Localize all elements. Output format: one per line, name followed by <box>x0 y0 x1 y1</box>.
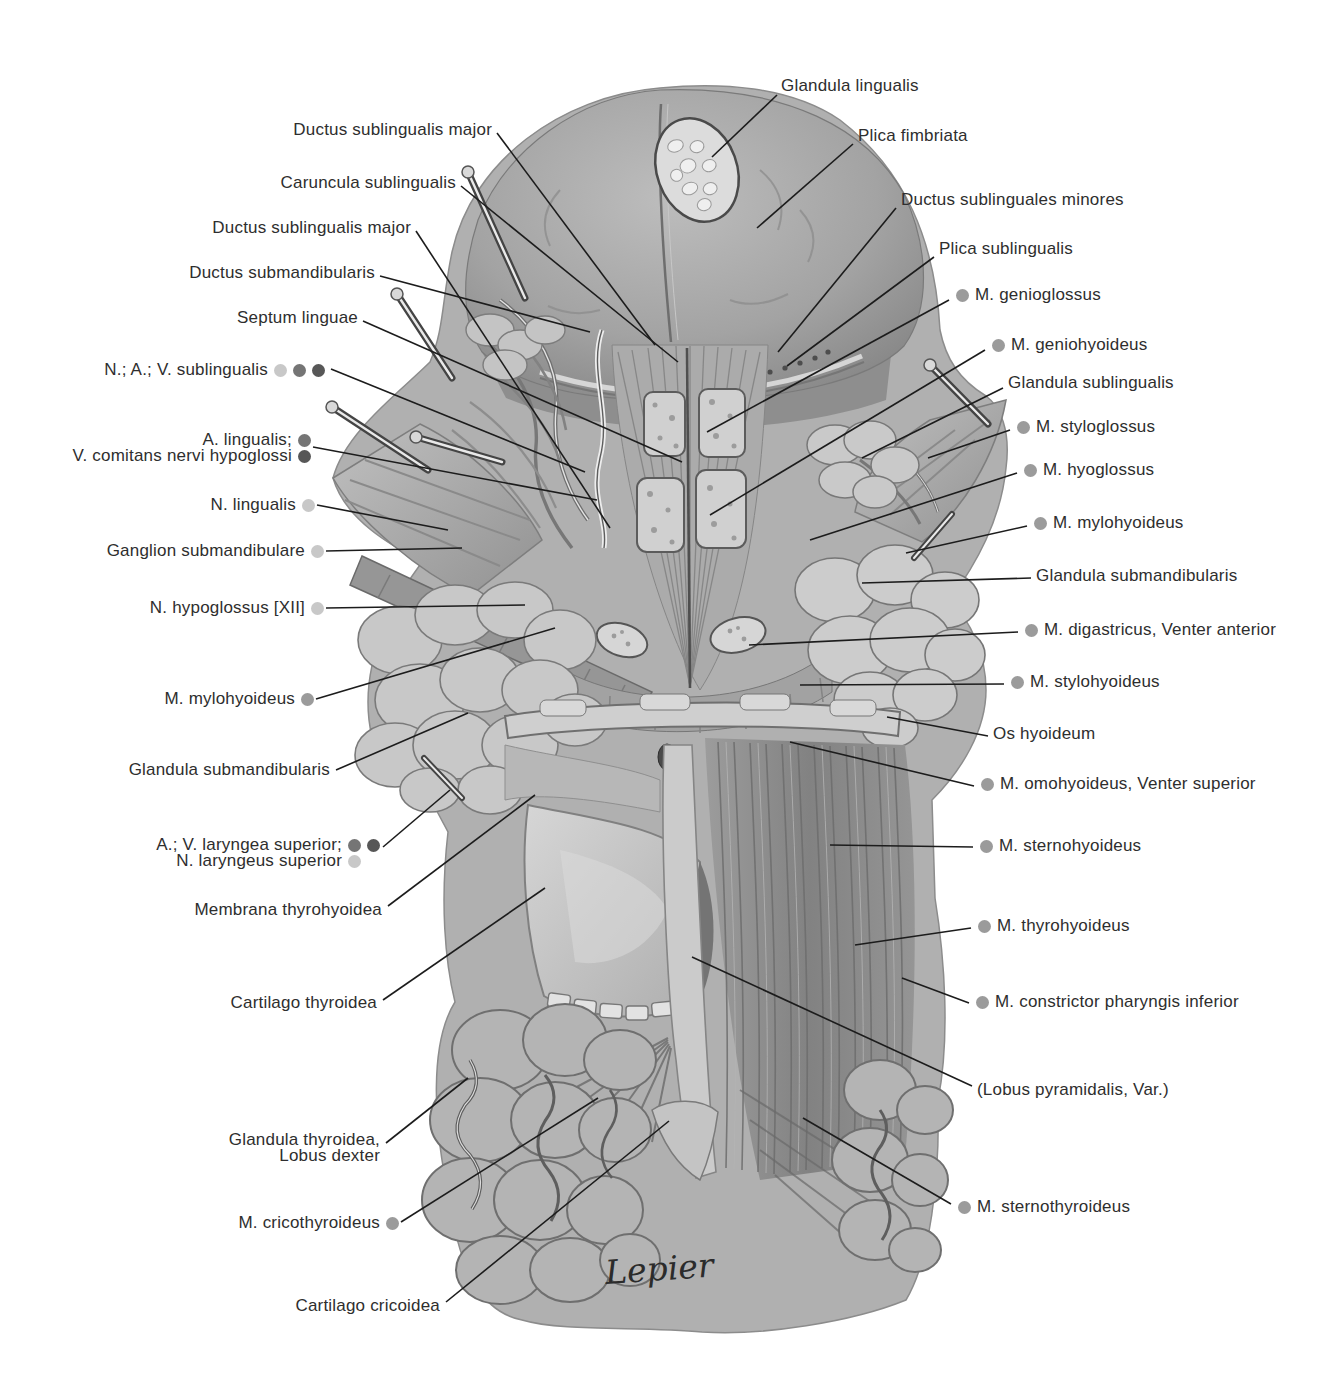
muscle-dot-icon <box>301 693 314 706</box>
label-m-styloglossus: M. styloglossus <box>1017 417 1155 437</box>
label-m-omohyoideus-venter-superior: M. omohyoideus, Venter superior <box>981 774 1256 794</box>
label-m-constrictor-pharyngis-inferior: M. constrictor pharyngis inferior <box>976 992 1239 1012</box>
label-lobus-dexter: Lobus dexter <box>279 1146 380 1166</box>
anatomical-plate: Lepier <box>0 0 1336 1380</box>
label-membrana-thyrohyoidea: Membrana thyrohyoidea <box>194 900 382 920</box>
muscle-dot-icon <box>980 840 993 853</box>
thyroid-gland-right-lobe <box>832 1060 953 1272</box>
label-m-mylohyoideus-left: M. mylohyoideus <box>164 689 314 709</box>
label-plica-sublingualis: Plica sublingualis <box>939 239 1073 259</box>
muscle-dot-icon <box>981 778 994 791</box>
label-nav-sublingualis: N.; A.; V. sublingualis <box>104 360 325 380</box>
artery-dot-icon <box>293 364 306 377</box>
label-plica-fimbriata: Plica fimbriata <box>858 126 968 146</box>
muscle-dot-icon <box>978 920 991 933</box>
muscle-dot-icon <box>1024 464 1037 477</box>
label-septum-linguae: Septum linguae <box>237 308 358 328</box>
label-v-comitans-nervi-hypoglossi: V. comitans nervi hypoglossi <box>73 446 311 466</box>
label-m-mylohyoideus-right: M. mylohyoideus <box>1034 513 1184 533</box>
artery-dot-icon <box>298 434 311 447</box>
label-glandula-submandibularis-right: Glandula submandibularis <box>1036 566 1237 586</box>
muscle-dot-icon <box>976 996 989 1009</box>
label-m-geniohyoideus: M. geniohyoideus <box>992 335 1147 355</box>
label-m-genioglossus: M. genioglossus <box>956 285 1101 305</box>
muscle-dot-icon <box>386 1217 399 1230</box>
label-glandula-sublingualis: Glandula sublingualis <box>1008 373 1174 393</box>
label-caruncula-sublingualis: Caruncula sublingualis <box>281 173 456 193</box>
artery-dot-icon <box>348 839 361 852</box>
muscle-dot-icon <box>992 339 1005 352</box>
nerve-dot-icon <box>302 499 315 512</box>
vein-dot-icon <box>367 839 380 852</box>
label-ganglion-submandibulare: Ganglion submandibulare <box>107 541 324 561</box>
muscle-dot-icon <box>956 289 969 302</box>
muscle-dot-icon <box>1017 421 1030 434</box>
label-m-stylohyoideus: M. stylohyoideus <box>1011 672 1160 692</box>
label-glandula-lingualis: Glandula lingualis <box>781 76 919 96</box>
label-lobus-pyramidalis-var: (Lobus pyramidalis, Var.) <box>977 1080 1169 1100</box>
label-n-laryngeus-superior: N. laryngeus superior <box>176 851 361 871</box>
label-m-digastricus-venter-anterior: M. digastricus, Venter anterior <box>1025 620 1276 640</box>
label-m-hyoglossus: M. hyoglossus <box>1024 460 1154 480</box>
label-glandula-submandibularis-left: Glandula submandibularis <box>129 760 330 780</box>
label-m-thyrohyoideus: M. thyrohyoideus <box>978 916 1130 936</box>
label-cartilago-thyroidea: Cartilago thyroidea <box>231 993 378 1013</box>
vein-dot-icon <box>312 364 325 377</box>
label-ductus-sublinguales-minores: Ductus sublinguales minores <box>901 190 1124 210</box>
label-os-hyoideum: Os hyoideum <box>993 724 1095 744</box>
label-ductus-submandibularis: Ductus submandibularis <box>189 263 375 283</box>
label-ductus-sublingualis-major-1: Ductus sublingualis major <box>293 120 492 140</box>
label-m-sternothyroideus: M. sternothyroideus <box>958 1197 1130 1217</box>
muscle-dot-icon <box>1011 676 1024 689</box>
label-n-lingualis: N. lingualis <box>210 495 315 515</box>
nerve-dot-icon <box>311 545 324 558</box>
vein-dot-icon <box>298 450 311 463</box>
muscle-dot-icon <box>1025 624 1038 637</box>
muscle-dot-icon <box>1034 517 1047 530</box>
label-cartilago-cricoidea: Cartilago cricoidea <box>295 1296 440 1316</box>
nerve-dot-icon <box>311 602 324 615</box>
muscle-dot-icon <box>958 1201 971 1214</box>
label-n-hypoglossus-xii: N. hypoglossus [XII] <box>150 598 324 618</box>
illustrator-signature: Lepier <box>603 1245 717 1292</box>
nerve-dot-icon <box>348 855 361 868</box>
label-m-cricothyroideus: M. cricothyroideus <box>238 1213 399 1233</box>
label-ductus-sublingualis-major-2: Ductus sublingualis major <box>212 218 411 238</box>
label-m-sternohyoideus: M. sternohyoideus <box>980 836 1141 856</box>
nerve-dot-icon <box>274 364 287 377</box>
